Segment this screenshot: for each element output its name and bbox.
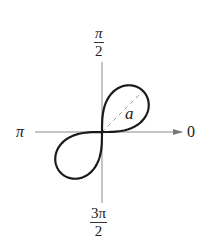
- label-3pi-over-2-denominator: 2: [90, 223, 107, 239]
- label-pi-over-2-denominator: 2: [94, 43, 104, 59]
- label-zero: 0: [187, 124, 195, 140]
- label-pi-over-2: π 2: [94, 26, 104, 59]
- label-3pi-over-2: 3π 2: [90, 206, 107, 239]
- label-a: a: [125, 106, 134, 122]
- label-3pi-over-2-numerator: 3π: [90, 206, 107, 223]
- label-pi-over-2-numerator: π: [94, 26, 104, 43]
- label-pi: π: [16, 124, 24, 140]
